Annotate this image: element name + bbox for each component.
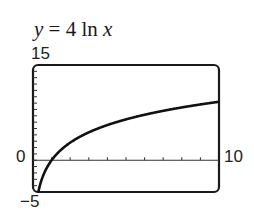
curve-line xyxy=(38,102,218,192)
y-min-label: −5 xyxy=(20,192,39,212)
plot-area xyxy=(0,0,254,218)
y-max-label: 15 xyxy=(31,44,50,64)
x-max-label: 10 xyxy=(224,147,243,167)
plot-frame xyxy=(33,65,219,192)
x-min-label: 0 xyxy=(16,147,25,167)
